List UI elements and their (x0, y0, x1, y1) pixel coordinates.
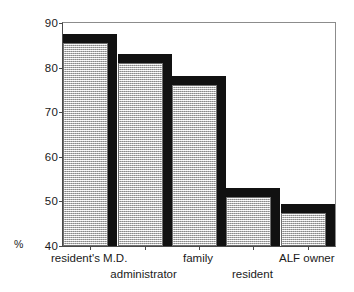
y-axis-tick-label: 80 (45, 62, 58, 74)
x-axis-tick-mark (199, 246, 200, 250)
y-axis-tick-label: 70 (45, 106, 58, 118)
x-axis-tick-mark (90, 246, 91, 250)
bar-top-face (226, 188, 280, 197)
bar-side-face (108, 43, 117, 246)
y-axis-tick-label: 90 (45, 17, 58, 29)
y-axis-tick-label: 60 (45, 151, 58, 163)
bar (226, 188, 280, 246)
bar-top-face (281, 204, 335, 213)
x-axis-tick-mark (308, 246, 309, 250)
x-axis-tick-mark (145, 246, 146, 250)
bar-top-face (118, 54, 172, 63)
x-axis-category-label: family (183, 252, 213, 264)
bar-front-face (172, 85, 217, 246)
bar-side-face (217, 85, 226, 246)
bar (172, 76, 226, 246)
bar (118, 54, 172, 246)
x-axis-category-label: resident (232, 268, 273, 280)
x-axis-category-label: administrator (110, 268, 176, 280)
bars-layer (63, 23, 335, 246)
x-axis-tick-mark (253, 246, 254, 250)
bar-front-face (281, 213, 326, 246)
bar-top-face (172, 76, 226, 85)
y-axis-tick-label: 40 (45, 240, 58, 252)
y-axis-tick-label: 50 (45, 195, 58, 207)
bar-front-face (226, 197, 271, 246)
x-axis-category-label: resident's M.D. (51, 252, 127, 264)
y-axis-tick-mark (59, 246, 63, 247)
bar-top-face (63, 34, 117, 43)
bar-side-face (163, 63, 172, 246)
bar (63, 34, 117, 246)
bar-side-face (326, 213, 335, 246)
plot-area: 405060708090 (62, 22, 336, 247)
bar-front-face (118, 63, 163, 246)
bar-front-face (63, 43, 108, 246)
bar (281, 204, 335, 246)
x-axis-category-label: ALF owner (279, 252, 335, 264)
y-axis-unit-label: % (14, 238, 23, 250)
bar-side-face (271, 197, 280, 246)
bar-chart-figure: % 405060708090 resident's M.D.administra… (0, 0, 354, 292)
